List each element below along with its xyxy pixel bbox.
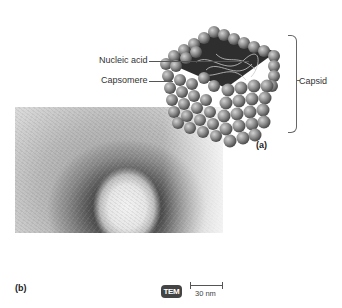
scale-bar-label: 30 nm (195, 289, 216, 298)
callout-capsid: Capsid (299, 76, 327, 86)
tem-badge: TEM (161, 285, 182, 298)
nucleic-acid-leader-line (149, 61, 249, 62)
scale-bar (190, 285, 223, 286)
capsid-model-illustration (156, 22, 284, 152)
callout-nucleic-acid: Nucleic acid (99, 55, 148, 65)
callout-capsomere: Capsomere (101, 75, 148, 85)
capsomere-leader-line (149, 81, 173, 82)
panel-b-label: (b) (15, 283, 27, 293)
panel-a-label: (a) (256, 140, 267, 150)
capsid-bracket (288, 35, 297, 133)
